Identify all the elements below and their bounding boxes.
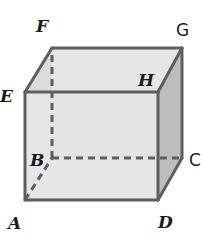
vertex-label-g: G — [176, 20, 189, 40]
front-face — [25, 92, 158, 200]
vertex-label-h: H — [137, 70, 155, 90]
vertex-label-a: A — [6, 213, 21, 233]
vertex-label-b: B — [29, 150, 44, 170]
vertex-label-e: E — [0, 86, 14, 106]
cube-diagram: F G E H B C A D — [0, 0, 204, 238]
vertex-label-f: F — [35, 16, 50, 36]
vertex-label-d: D — [157, 212, 173, 232]
vertex-label-c: C — [189, 150, 201, 170]
